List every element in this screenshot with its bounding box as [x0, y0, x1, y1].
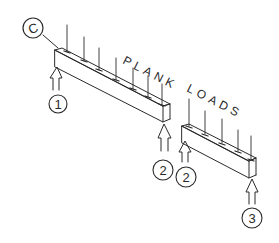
structural-sketch: C PLANK 1 2 [0, 0, 279, 243]
loads-label: LOADS [185, 81, 245, 121]
reaction-label-2b: 2 [182, 170, 189, 185]
reaction-label-3: 3 [248, 211, 255, 226]
reaction-arrow-2b: 2 [176, 141, 196, 187]
reaction-arrow-2a: 2 [153, 124, 173, 180]
plank-label: PLANK [121, 53, 180, 92]
reaction-arrow-3: 3 [242, 179, 262, 228]
beam-1-2 [55, 48, 170, 122]
reaction-label-2a: 2 [159, 163, 166, 178]
reaction-label-1: 1 [54, 97, 61, 112]
grid-bubble-c: C [23, 18, 58, 48]
reaction-arrow-1: 1 [49, 67, 67, 113]
grid-bubble-label: C [26, 20, 40, 37]
